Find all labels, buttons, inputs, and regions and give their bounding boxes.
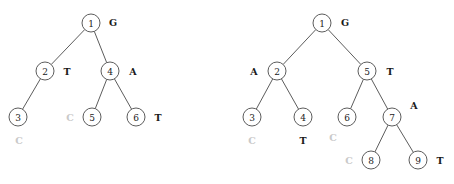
node-number: 8 <box>368 156 374 166</box>
tree-node[interactable]: 1 <box>313 14 331 32</box>
node-base-label: C <box>15 135 23 146</box>
node-number: 4 <box>300 113 306 123</box>
node-base-label: T <box>386 66 393 77</box>
node-base-label: G <box>341 17 349 28</box>
tree-node[interactable]: 9 <box>409 151 427 169</box>
nodes-layer: 124356125346789 <box>9 14 427 169</box>
tree-edge <box>397 125 414 153</box>
tree-node[interactable]: 6 <box>127 108 145 126</box>
tree-edge <box>95 79 106 108</box>
node-number: 1 <box>319 19 325 29</box>
node-base-label: C <box>329 132 337 143</box>
node-base-label: A <box>249 66 258 77</box>
node-base-label: A <box>128 66 137 77</box>
tree-edge <box>371 79 387 109</box>
tree-edge <box>351 79 364 109</box>
tree-diagram-canvas: 124356125346789 GTACCTGATCTCACT <box>0 0 454 184</box>
binary-trees-figure: 124356125346789 GTACCTGATCTCACT <box>0 0 454 184</box>
tree-node[interactable]: 7 <box>383 108 401 126</box>
tree-edge <box>94 31 106 62</box>
node-number: 2 <box>274 67 280 77</box>
node-number: 3 <box>15 113 21 123</box>
node-base-label: T <box>63 66 70 77</box>
tree-edge <box>51 30 85 65</box>
tree-edge <box>283 30 316 65</box>
tree-edge <box>23 79 41 109</box>
tree-node[interactable]: 5 <box>83 108 101 126</box>
tree-node[interactable]: 5 <box>358 62 376 80</box>
node-base-label: C <box>248 135 256 146</box>
tree-node[interactable]: 4 <box>101 62 119 80</box>
edges-layer <box>23 30 414 153</box>
tree-edge <box>281 79 298 109</box>
node-number: 4 <box>107 67 113 77</box>
tree-node[interactable]: 2 <box>268 62 286 80</box>
node-base-label: T <box>299 135 306 146</box>
node-base-label: C <box>345 155 353 166</box>
node-number: 6 <box>344 113 350 123</box>
node-number: 6 <box>133 113 139 123</box>
node-number: 5 <box>89 113 95 123</box>
node-base-label: A <box>409 100 418 111</box>
tree-node[interactable]: 8 <box>362 151 380 169</box>
node-base-label: G <box>109 17 117 28</box>
node-number: 2 <box>42 67 48 77</box>
node-number: 9 <box>415 156 421 166</box>
node-number: 1 <box>88 19 94 29</box>
tree-node[interactable]: 2 <box>36 62 54 80</box>
tree-node[interactable]: 1 <box>82 14 100 32</box>
tree-edge <box>114 79 131 109</box>
node-base-label: T <box>154 112 161 123</box>
tree-node[interactable]: 6 <box>338 108 356 126</box>
node-base-label: T <box>436 155 443 166</box>
node-number: 5 <box>364 67 370 77</box>
tree-edge <box>328 30 361 65</box>
tree-node[interactable]: 4 <box>294 108 312 126</box>
node-number: 7 <box>389 113 395 123</box>
node-number: 3 <box>249 113 255 123</box>
tree-node[interactable]: 3 <box>9 108 27 126</box>
tree-node[interactable]: 3 <box>243 108 261 126</box>
tree-edge <box>375 125 388 152</box>
tree-edge <box>256 79 272 109</box>
node-base-label: C <box>66 112 74 123</box>
